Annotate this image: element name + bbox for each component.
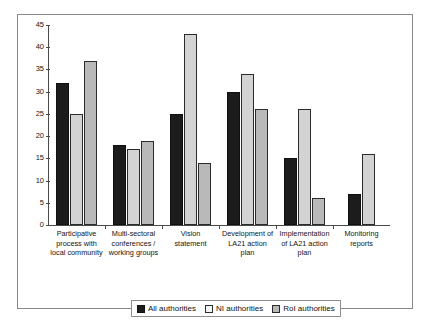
y-axis-tick-label: 5 [40,199,44,207]
y-axis-tick-label: 20 [36,132,44,140]
legend-swatch-icon [272,305,280,313]
bar [113,145,126,225]
chart-frame: 051015202530354045 Participativeprocess … [17,14,413,309]
bar-group [162,25,219,225]
y-axis-tick-label: 45 [36,21,44,29]
bar-group [276,25,333,225]
x-axis-category-label-line: Vision [158,229,223,239]
bar [141,141,154,225]
bar [227,92,240,225]
x-axis-category-label: Multi-sectoralconferences /working group… [101,229,166,258]
bar [56,83,69,225]
x-axis-category-label-line: process with [44,239,109,249]
legend-label: RoI authorities [283,305,335,313]
x-axis-category-label-line: local community [44,248,109,258]
x-axis-category-label-line: conferences / [101,239,166,249]
bar [70,114,83,225]
y-axis-tick-label: 40 [36,43,44,51]
y-axis-tick-label: 10 [36,177,44,185]
x-axis-category-label-line: statement [158,239,223,249]
bar-group [105,25,162,225]
x-axis-category-label-line: Monitoring [329,229,394,239]
x-axis-category-label-line: plan [215,248,280,258]
y-axis-tick-label: 25 [36,110,44,118]
chart-legend: All authoritiesNI authoritiesRoI authori… [131,300,341,317]
x-axis-category-label-line: Multi-sectoral [101,229,166,239]
x-axis-category-label-line: plan [272,248,337,258]
x-axis-category-labels: Participativeprocess withlocal community… [48,229,390,281]
legend-swatch-icon [137,305,145,313]
bar [84,61,97,225]
legend-label: NI authorities [216,305,263,313]
legend-swatch-icon [205,305,213,313]
bar-group [219,25,276,225]
bar [312,198,325,225]
bar [170,114,183,225]
bar [362,154,375,225]
bar [127,149,140,225]
x-axis-category-label: Visionstatement [158,229,223,248]
x-axis-category-label: Participativeprocess withlocal community [44,229,109,258]
x-axis-category-label: Monitoringreports [329,229,394,248]
x-axis-category-label-line: reports [329,239,394,249]
y-axis-tick-mark [46,225,50,226]
y-axis-tick-label: 15 [36,155,44,163]
x-axis-category-label: Implementationof LA21 actionplan [272,229,337,258]
bar [298,109,311,225]
y-axis-tick-label: 0 [40,221,44,229]
x-axis-category-label-line: Participative [44,229,109,239]
x-axis-category-label-line: of LA21 action [272,239,337,249]
legend-item: NI authorities [205,305,263,313]
y-axis-tick-label: 35 [36,66,44,74]
x-axis-category-label: Development ofLA21 actionplan [215,229,280,258]
bar [184,34,197,225]
bar-group [48,25,105,225]
bar [255,109,268,225]
bar-group [333,25,390,225]
x-axis-category-label-line: working groups [101,248,166,258]
x-axis-category-label-line: Implementation [272,229,337,239]
bar [284,158,297,225]
plot-area: 051015202530354045 [48,25,390,225]
legend-label: All authorities [148,305,196,313]
y-axis-tick-label: 30 [36,88,44,96]
legend-item: All authorities [137,305,196,313]
legend-item: RoI authorities [272,305,335,313]
x-axis-category-label-line: Development of [215,229,280,239]
bar [241,74,254,225]
x-axis-category-label-line: LA21 action [215,239,280,249]
bar [198,163,211,225]
bar [348,194,361,225]
